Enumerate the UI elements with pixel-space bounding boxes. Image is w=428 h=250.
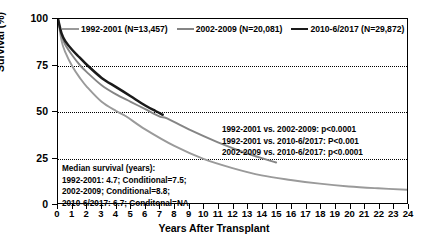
x-tick-mark bbox=[393, 204, 394, 209]
y-tick-label: 25 bbox=[14, 153, 48, 164]
x-tick-mark bbox=[276, 204, 277, 209]
x-tick-mark bbox=[233, 204, 234, 209]
median-line: 2002-2009; Conditional=8.8; bbox=[62, 186, 189, 198]
x-tick-mark bbox=[335, 204, 336, 209]
x-tick-mark bbox=[320, 204, 321, 209]
legend-line-icon bbox=[291, 28, 308, 30]
y-tick-label: 0 bbox=[14, 199, 48, 210]
legend-label: 2002-2009 (N=20,081) bbox=[196, 24, 283, 34]
pvalue-line: 1992-2001 vs. 2010-6/2017: P<0.001 bbox=[222, 136, 363, 148]
pvalue-line: 2002-2009 vs. 2010-6/2017: p<0.0001 bbox=[222, 147, 363, 159]
survival-chart: Survival (%) 0255075100 0123456789101112… bbox=[0, 0, 428, 250]
x-tick-mark bbox=[350, 204, 351, 209]
legend-item-2002-2009: 2002-2009 (N=20,081) bbox=[177, 24, 283, 34]
y-tick-label: 100 bbox=[14, 13, 48, 24]
pvalue-line: 1992-2001 vs. 2002-2009: p<0.0001 bbox=[222, 124, 363, 136]
legend-line-icon bbox=[177, 28, 194, 30]
y-tick-label: 75 bbox=[14, 60, 48, 71]
median-line: 2010-6/2017: 6.7; Conditonal=NA bbox=[62, 198, 189, 210]
x-tick-mark bbox=[291, 204, 292, 209]
x-axis-title: Years After Transplant bbox=[0, 222, 428, 234]
x-tick-mark bbox=[247, 204, 248, 209]
x-tick-mark bbox=[218, 204, 219, 209]
x-tick-label: 24 bbox=[399, 209, 417, 219]
x-tick-mark bbox=[203, 204, 204, 209]
legend-label: 1992-2001 (N=13,457) bbox=[81, 24, 168, 34]
x-tick-mark bbox=[262, 204, 263, 209]
legend-line-icon bbox=[62, 28, 79, 30]
median-line: Median survival (years): bbox=[62, 163, 189, 175]
y-tick-label: 50 bbox=[14, 106, 48, 117]
x-tick-mark bbox=[306, 204, 307, 209]
legend-item-2010-2017: 2010-6/2017 (N=29,872) bbox=[291, 24, 404, 34]
x-tick-mark bbox=[408, 204, 409, 209]
legend-label: 2010-6/2017 (N=29,872) bbox=[310, 24, 404, 34]
legend: 1992-2001 (N=13,457) 2002-2009 (N=20,081… bbox=[62, 24, 404, 34]
y-axis-title: Survival (%) bbox=[0, 12, 6, 72]
pvalue-annotation: 1992-2001 vs. 2002-2009: p<0.0001 1992-2… bbox=[222, 124, 363, 159]
median-survival-annotation: Median survival (years): 1992-2001: 4.7;… bbox=[62, 163, 189, 210]
legend-item-1992-2001: 1992-2001 (N=13,457) bbox=[62, 24, 168, 34]
x-tick-mark bbox=[379, 204, 380, 209]
x-tick-mark bbox=[57, 204, 58, 209]
x-tick-mark bbox=[364, 204, 365, 209]
median-line: 1992-2001: 4.7; Conditional=7.5; bbox=[62, 175, 189, 187]
